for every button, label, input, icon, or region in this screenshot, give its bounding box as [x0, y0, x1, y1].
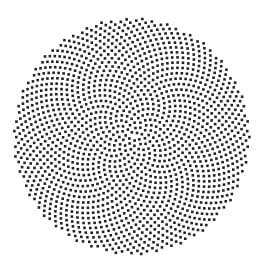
dot: [169, 195, 172, 198]
dot: [128, 160, 131, 163]
dot: [118, 136, 121, 139]
dot: [191, 211, 194, 214]
dot: [18, 111, 21, 114]
dot: [217, 168, 220, 171]
dot: [76, 206, 79, 209]
dot: [185, 89, 188, 92]
dot: [148, 82, 151, 85]
dot: [50, 198, 53, 201]
dot: [40, 84, 43, 87]
dot: [98, 171, 101, 174]
dot: [160, 37, 163, 40]
dot: [137, 94, 140, 97]
dot: [162, 28, 165, 31]
dot: [186, 209, 189, 212]
dot: [234, 108, 237, 111]
dot: [125, 229, 128, 232]
dot: [121, 54, 124, 57]
dot: [56, 103, 59, 106]
dot: [168, 100, 171, 103]
dot: [157, 238, 160, 241]
dot: [95, 31, 98, 34]
dot: [123, 245, 126, 248]
dot: [208, 218, 211, 221]
dot: [122, 139, 125, 142]
dot: [243, 133, 246, 136]
dot: [108, 213, 111, 216]
dot: [123, 224, 126, 227]
dot: [99, 156, 102, 159]
dot: [133, 113, 136, 116]
dot: [133, 25, 136, 28]
dot: [118, 92, 121, 95]
dot: [137, 110, 140, 113]
dot: [70, 142, 73, 145]
dot: [111, 65, 114, 68]
dot: [206, 149, 209, 152]
dot: [112, 248, 115, 251]
dot: [140, 170, 143, 173]
dot: [45, 83, 48, 86]
dot: [211, 196, 214, 199]
dot: [151, 98, 154, 101]
dot: [56, 49, 59, 52]
dot: [179, 105, 182, 108]
dot: [102, 192, 105, 195]
dot: [131, 96, 134, 99]
dot: [156, 76, 159, 79]
dot: [172, 120, 175, 123]
dot: [28, 131, 31, 134]
dot: [92, 168, 95, 171]
dot: [133, 66, 136, 69]
dot: [77, 221, 80, 224]
dot: [88, 174, 91, 177]
dot: [227, 165, 230, 168]
dot: [99, 221, 102, 224]
dot: [82, 158, 85, 161]
dot: [14, 155, 17, 158]
dot: [32, 110, 35, 113]
dot: [166, 230, 169, 233]
dot: [127, 194, 130, 197]
dot: [84, 179, 87, 182]
dot: [91, 184, 94, 187]
dot: [60, 88, 63, 91]
dot: [140, 204, 143, 207]
dot: [139, 43, 142, 46]
dot: [58, 154, 61, 157]
dot: [178, 148, 181, 151]
dot: [79, 190, 82, 193]
dot: [188, 152, 191, 155]
dot: [139, 121, 142, 124]
dot: [196, 75, 199, 78]
dot: [157, 196, 160, 199]
dot: [159, 154, 162, 157]
dot: [153, 192, 156, 195]
dot: [23, 114, 26, 117]
dot: [206, 213, 209, 216]
dot: [136, 158, 139, 161]
dot: [196, 128, 199, 131]
dot: [129, 243, 132, 246]
dot: [128, 111, 131, 114]
dot: [154, 90, 157, 93]
dot: [143, 71, 146, 74]
dot: [192, 53, 195, 56]
dot: [120, 71, 123, 74]
dot: [203, 207, 206, 210]
dot: [192, 189, 195, 192]
dot: [153, 149, 156, 152]
dot: [153, 24, 156, 27]
dot: [76, 64, 79, 67]
dot: [39, 196, 42, 199]
dot: [103, 164, 106, 167]
dot: [21, 138, 24, 141]
dot: [141, 18, 144, 21]
dot: [48, 212, 51, 215]
dot: [60, 186, 63, 189]
dot: [45, 99, 48, 102]
dot: [231, 143, 234, 146]
dot: [104, 147, 107, 150]
dot: [211, 213, 214, 216]
dot: [221, 116, 224, 119]
